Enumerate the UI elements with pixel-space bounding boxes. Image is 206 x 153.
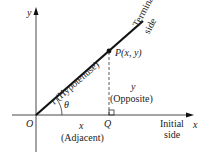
initial-side-line2: side xyxy=(164,130,180,140)
point-p xyxy=(107,49,112,54)
adjacent-var: x xyxy=(79,121,83,131)
x-axis-arrow-icon xyxy=(186,113,194,118)
origin-label: O xyxy=(26,119,33,129)
x-axis-label: x xyxy=(193,120,197,130)
adjacent-desc: (Adjacent) xyxy=(61,133,104,143)
angle-label: θ xyxy=(64,100,69,110)
opposite-var: y xyxy=(131,82,135,92)
y-axis-arrow-icon xyxy=(34,7,39,15)
foot-label: Q xyxy=(104,119,111,129)
initial-side-line1: Initial xyxy=(160,119,184,129)
y-axis-label: y xyxy=(27,8,31,18)
opposite-desc: (Opposite) xyxy=(110,94,153,104)
point-label: P(x, y) xyxy=(115,48,142,58)
right-angle-marker xyxy=(109,110,114,115)
